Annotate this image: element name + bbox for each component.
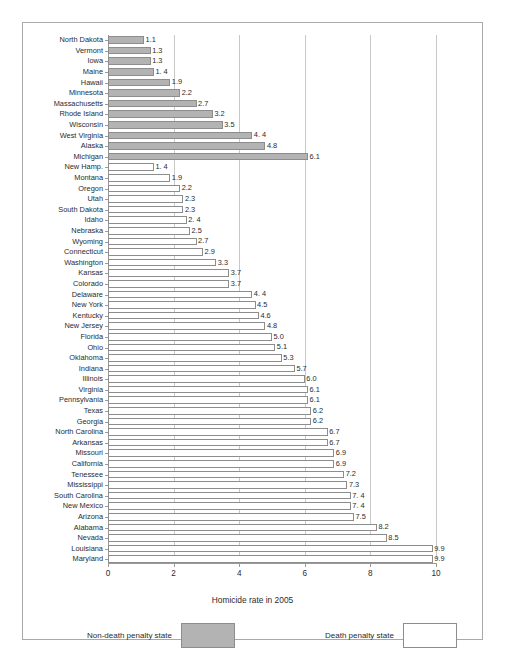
bar-row: North Dakota1.1 xyxy=(108,35,436,46)
bar-row: Montana1.9 xyxy=(108,173,436,184)
bar-row: Iowa1.3 xyxy=(108,56,436,67)
bar: 1.3 xyxy=(108,47,151,55)
category-label: Florida xyxy=(80,333,103,340)
bar-value-label: 6.9 xyxy=(336,460,346,467)
bar: 1.9 xyxy=(108,174,170,182)
bar-value-label: 4. 4 xyxy=(254,132,266,139)
category-label: Kentucky xyxy=(73,312,103,319)
bar-row: Idaho2. 4 xyxy=(108,215,436,226)
bar-row: New Hamp.1. 4 xyxy=(108,162,436,173)
bar-value-label: 6.2 xyxy=(313,418,323,425)
bar: 6.1 xyxy=(108,153,308,161)
category-label: New Hamp. xyxy=(64,164,103,171)
bar-value-label: 8.2 xyxy=(378,524,388,531)
bar: 6.0 xyxy=(108,375,305,383)
category-label: Wyoming xyxy=(72,238,103,245)
x-axis-tick xyxy=(370,563,371,567)
category-label: Vermont xyxy=(75,47,103,54)
bar-row: North Carolina6.7 xyxy=(108,427,436,438)
bar-row: Wisconsin3.5 xyxy=(108,120,436,131)
category-label: Michigan xyxy=(73,153,103,160)
bar-row: Rhode Island3.2 xyxy=(108,109,436,120)
bar-row: Tenessee7.2 xyxy=(108,469,436,480)
category-label: Illinois xyxy=(82,376,103,383)
bar-value-label: 3.5 xyxy=(224,121,234,128)
bar-value-label: 6.7 xyxy=(329,428,339,435)
category-label: Utah xyxy=(87,196,103,203)
bar: 5.3 xyxy=(108,354,282,362)
bar: 2.3 xyxy=(108,195,183,203)
bar: 6.7 xyxy=(108,428,328,436)
bar-value-label: 8.5 xyxy=(388,534,398,541)
bar-row: Georgia6.2 xyxy=(108,416,436,427)
category-label: Massachusetts xyxy=(54,100,103,107)
bar-value-label: 2.3 xyxy=(185,206,195,213)
bar-value-label: 2. 4 xyxy=(188,216,200,223)
bar-row: New Mexico7. 4 xyxy=(108,501,436,512)
bar-row: West Virginia4. 4 xyxy=(108,130,436,141)
bar-value-label: 6.0 xyxy=(306,375,316,382)
bar-row: Mississippi7.3 xyxy=(108,480,436,491)
category-label: Rhode Island xyxy=(59,111,103,118)
bar-row: South Dakota2.3 xyxy=(108,205,436,216)
bar: 7.5 xyxy=(108,513,354,521)
bar-value-label: 4.8 xyxy=(267,142,277,149)
bar: 2.7 xyxy=(108,238,197,246)
legend-label-death-penalty: Death penalty state xyxy=(325,631,394,640)
bar-row: Nevada8.5 xyxy=(108,533,436,544)
bar: 4. 4 xyxy=(108,132,252,140)
bar: 3.7 xyxy=(108,280,229,288)
bar-row: Massachusetts2.7 xyxy=(108,99,436,110)
bar-row: Connecticut2.9 xyxy=(108,247,436,258)
bar-value-label: 6.2 xyxy=(313,407,323,414)
category-label: North Carolina xyxy=(55,429,103,436)
bar: 1.3 xyxy=(108,57,151,65)
x-axis-title: Homicide rate in 2005 xyxy=(23,595,482,605)
category-label: Alaska xyxy=(81,143,103,150)
bar: 3.2 xyxy=(108,110,213,118)
bar-value-label: 5.7 xyxy=(296,365,306,372)
bar-value-label: 2.7 xyxy=(198,100,208,107)
category-label: New York xyxy=(72,301,103,308)
bar: 4.6 xyxy=(108,312,259,320)
bar: 6.2 xyxy=(108,418,311,426)
bar-row: Indiana5.7 xyxy=(108,363,436,374)
bar-value-label: 7. 4 xyxy=(352,492,364,499)
bar-row: California6.9 xyxy=(108,459,436,470)
category-label: North Dakota xyxy=(59,37,103,44)
bar-row: Minnesota2.2 xyxy=(108,88,436,99)
bar-row: Wyoming2.7 xyxy=(108,236,436,247)
bar-value-label: 1. 4 xyxy=(155,68,167,75)
category-label: Montana xyxy=(74,174,103,181)
category-label: Alabama xyxy=(74,524,103,531)
bar-row: Louisiana9.9 xyxy=(108,544,436,555)
category-label: Idaho xyxy=(85,217,104,224)
bar-value-label: 6.1 xyxy=(310,386,320,393)
bar-value-label: 7.3 xyxy=(349,481,359,488)
bar-value-label: 3.3 xyxy=(218,259,228,266)
bar: 5.0 xyxy=(108,333,272,341)
bar: 1. 4 xyxy=(108,68,154,76)
bar-row: Vermont1.3 xyxy=(108,46,436,57)
bar: 2.2 xyxy=(108,185,180,193)
category-label: Louisiana xyxy=(71,545,103,552)
bar: 8.2 xyxy=(108,524,377,532)
category-label: Tenessee xyxy=(71,471,103,478)
bar-row: Michigan6.1 xyxy=(108,152,436,163)
category-label: Missouri xyxy=(75,450,103,457)
bar: 6.9 xyxy=(108,460,334,468)
bar-rows: North Dakota1.1Vermont1.3Iowa1.3Maine1. … xyxy=(108,35,436,559)
bar-row: New Jersey4.8 xyxy=(108,321,436,332)
bar: 3.7 xyxy=(108,269,229,277)
category-label: Minnesota xyxy=(69,90,103,97)
bar: 3.5 xyxy=(108,121,223,129)
x-axis-tick-label: 0 xyxy=(106,569,111,578)
bar-value-label: 3.2 xyxy=(214,111,224,118)
category-label: Colorado xyxy=(73,280,103,287)
bar: 5.7 xyxy=(108,365,295,373)
bar-value-label: 1.9 xyxy=(172,174,182,181)
bar: 9.9 xyxy=(108,545,433,553)
category-label: Ohio xyxy=(87,344,103,351)
bar: 6.9 xyxy=(108,449,334,457)
category-label: Georgia xyxy=(77,418,103,425)
